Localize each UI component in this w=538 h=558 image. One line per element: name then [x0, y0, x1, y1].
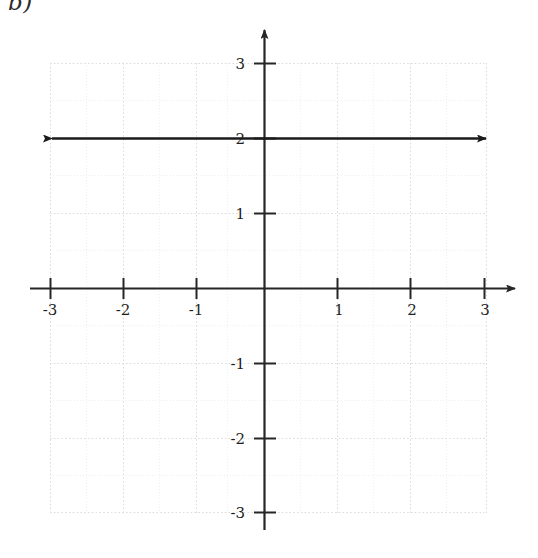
- y-tick-label-neg3: -3: [230, 504, 245, 522]
- x-tick-label-neg3: -3: [43, 301, 58, 319]
- coordinate-plot: -3 -2 -1 1 2 3 3 2 1 -1 -2 -3: [0, 0, 538, 558]
- x-tick-label-pos3: 3: [480, 301, 490, 319]
- y-tick-label-pos3: 3: [235, 55, 245, 73]
- x-tick-label-neg1: -1: [189, 301, 204, 319]
- y-tick-label-neg2: -2: [230, 430, 245, 448]
- y-tick-label-pos1: 1: [235, 205, 245, 223]
- x-axis-tick-labels: -3 -2 -1 1 2 3: [43, 301, 490, 319]
- x-tick-label-pos2: 2: [407, 301, 417, 319]
- x-tick-label-pos1: 1: [334, 301, 344, 319]
- x-tick-label-neg2: -2: [116, 301, 131, 319]
- y-tick-label-neg1: -1: [230, 355, 245, 373]
- coordinate-plane-figure: b): [0, 0, 538, 558]
